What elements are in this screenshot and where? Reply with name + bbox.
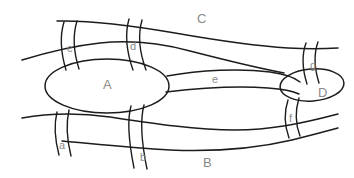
passage-label-f: f bbox=[289, 113, 292, 124]
passage-label-c: c bbox=[67, 43, 73, 54]
gate-b-stroke-1 bbox=[129, 106, 134, 168]
boundary-lower-outer bbox=[62, 128, 338, 151]
passage-label-b: b bbox=[140, 152, 146, 163]
region-label-d: D bbox=[318, 86, 327, 99]
region-label-a: A bbox=[103, 78, 112, 91]
corridor-e-lower-edge bbox=[166, 87, 299, 94]
diagram-canvas: A B C D a b c d e f g bbox=[0, 0, 354, 178]
gate-a-stroke-2 bbox=[67, 110, 71, 156]
region-d-ellipse bbox=[279, 67, 345, 103]
passage-label-a: a bbox=[59, 140, 65, 151]
passage-label-e: e bbox=[212, 74, 218, 85]
region-label-b: B bbox=[203, 156, 212, 169]
passage-label-g: g bbox=[310, 60, 316, 71]
gate-f-stroke-2 bbox=[296, 98, 300, 136]
gate-c-stroke-1 bbox=[61, 22, 66, 70]
region-label-c: C bbox=[197, 12, 206, 25]
passage-label-d: d bbox=[130, 41, 136, 52]
diagram-graphic bbox=[0, 0, 354, 178]
